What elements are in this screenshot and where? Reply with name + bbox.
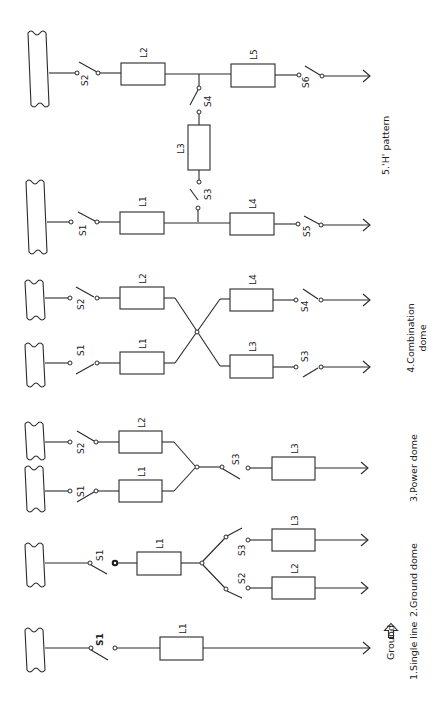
caption-ground-dome: 2.Ground dome [408,543,419,617]
switch-s1: S1 [89,633,117,660]
busbar-icon [25,543,45,587]
caption-single-line: 1.Single line [408,621,419,680]
caption-combination-dome-line2: dome [417,324,428,351]
switch-s4: S4 [294,289,323,312]
load-l2 [119,431,162,453]
load-l4 [230,213,274,235]
label-s2: S2 [76,443,86,454]
load-l3 [230,355,273,378]
load-l2 [272,577,315,599]
label-l3: L3 [176,143,186,154]
label-l1: L1 [178,623,188,634]
load-l1 [160,637,203,660]
label-s1: S1 [78,225,88,236]
ground-legend: Ground [385,624,398,661]
switch-s1: S1 [88,550,117,574]
load-l1 [120,352,164,374]
switch-s6: S6 [297,66,324,88]
caption-power-dome: 3.Power dome [408,434,419,502]
load-l1 [119,480,162,502]
panel-h-pattern: S2 L2 L5 S6 S4 L3 [26,31,370,254]
caption-h-pattern: 5.'H' pattern [380,116,391,175]
label-s1: S1 [95,633,105,646]
label-l2: L2 [137,417,147,428]
load-l3 [272,457,315,480]
switch-s4: S4 [190,86,213,114]
label-l4: L4 [248,274,258,285]
panel-ground-dome: S1 L1 S3 L3 S2 L2 [25,515,368,599]
label-s2: S2 [80,75,90,86]
label-s4: S4 [203,95,213,107]
load-l1 [120,212,164,234]
switch-s1: S1 [69,212,99,236]
switch-s1: S1 [68,486,98,502]
switch-s3: S3 [294,351,323,377]
busbar-icon [25,422,45,460]
captions: 1.Single line 2.Ground dome 3.Power dome… [380,116,428,680]
label-l1: L1 [155,538,165,549]
panel-combination-dome: S2 L2 S1 L1 L4 S4 [25,273,370,387]
label-s4: S4 [300,300,310,312]
load-l1 [137,552,181,575]
label-l2: L2 [290,563,300,574]
label-s3: S3 [300,351,310,362]
switch-s3: S3 [220,454,250,479]
label-l3: L3 [248,341,258,352]
busbar-icon [28,31,49,107]
busbar-icon [25,628,45,672]
label-l4: L4 [248,198,258,209]
label-l2: L2 [139,47,149,58]
switch-s3: S3 [224,528,250,556]
panel-power-dome: S2 L2 S1 L1 S3 L3 [25,417,368,512]
load-l2 [121,63,165,85]
switch-s2: S2 [75,62,100,86]
load-l2 [120,287,164,309]
busbar-icon [26,180,47,254]
label-s2: S2 [76,299,86,310]
caption-combination-dome-line1: 4.Combination [405,303,416,372]
label-s2: S2 [237,573,247,584]
label-l3: L3 [290,515,300,526]
busbar-icon [25,280,45,320]
label-l5: L5 [249,49,259,60]
label-l2: L2 [138,273,148,284]
circuit-diagram: S1 L1 Ground S1 L1 S3 [0,0,438,708]
label-l1: L1 [138,338,148,349]
load-l3 [272,529,315,551]
label-s1: S1 [95,550,105,561]
switch-s3: S3 [190,180,213,210]
load-l4 [230,289,273,311]
label-s3: S3 [237,545,247,556]
busbar-icon [25,343,45,387]
switch-s5: S5 [296,216,323,237]
switch-s1: S1 [68,345,99,374]
switch-s2: S2 [68,431,98,454]
label-s5: S5 [302,226,312,237]
load-l5 [231,64,275,87]
load-l3 [188,125,210,170]
label-l3: L3 [290,443,300,454]
label-s1: S1 [76,345,86,356]
switch-s2: S2 [224,573,250,598]
switch-s2: S2 [68,287,99,310]
label-l1: L1 [137,466,147,477]
label-s6: S6 [301,76,311,88]
label-l1: L1 [138,196,148,207]
label-s3: S3 [231,454,241,465]
panel-single-line: S1 L1 [25,623,370,672]
label-s1: S1 [76,486,86,497]
busbar-icon [25,466,45,512]
label-s3: S3 [203,189,213,200]
